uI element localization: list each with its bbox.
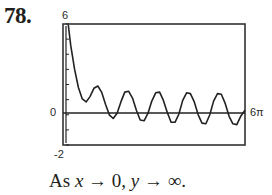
graph [0, 0, 272, 195]
y-min-label: -2 [54, 148, 64, 160]
y-max-label: 6 [62, 9, 68, 21]
x-max-label: 6π [250, 106, 264, 118]
caption-limit-x: → 0, [83, 170, 131, 191]
caption-limit-y: → ∞. [139, 170, 186, 191]
graph-frame [63, 24, 245, 145]
function-curve [68, 25, 245, 125]
y-zero-label: 0 [50, 106, 56, 118]
caption-prefix: As [49, 170, 75, 191]
caption-var-y: y [131, 170, 139, 191]
caption: As x → 0, y → ∞. [49, 170, 186, 192]
